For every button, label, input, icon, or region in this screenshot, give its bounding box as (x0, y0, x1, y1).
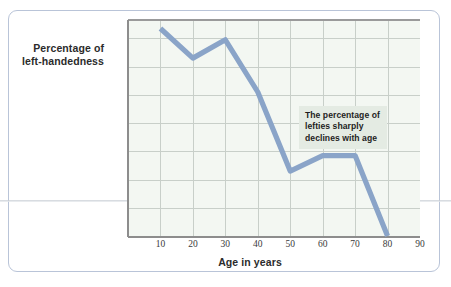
y-axis-title-line-1: Percentage of (12, 42, 104, 55)
x-tick-label: 80 (373, 239, 403, 249)
y-axis-title-line-2: left-handedness (12, 55, 104, 68)
chart-annotation-line-2: lefties sharply (305, 121, 382, 132)
x-tick-label: 40 (243, 239, 273, 249)
x-tick-label: 10 (145, 239, 175, 249)
chart-annotation-line-3: declines with age (305, 133, 382, 144)
x-tick-label: 70 (340, 239, 370, 249)
chart-annotation-line-1: The percentage of (305, 110, 382, 121)
x-tick-label: 50 (275, 239, 305, 249)
x-tick-label: 60 (308, 239, 338, 249)
x-tick-label: 90 (405, 239, 435, 249)
x-tick-label: 30 (210, 239, 240, 249)
x-tick-label: 20 (178, 239, 208, 249)
x-axis-title: Age in years (180, 256, 320, 268)
y-axis-title: Percentage of left-handedness (12, 42, 104, 68)
chart-annotation: The percentage of lefties sharply declin… (299, 106, 387, 149)
